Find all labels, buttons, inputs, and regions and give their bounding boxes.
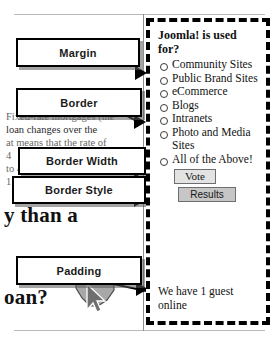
callout-label: Padding (57, 265, 102, 277)
poll-option-label: Intranets (172, 112, 212, 126)
poll-option-blogs[interactable]: Blogs (160, 99, 258, 113)
radio-button-icon[interactable] (160, 104, 168, 112)
callout-padding: Padding (16, 256, 142, 285)
radio-button-icon[interactable] (160, 77, 168, 85)
callout-label: Border (60, 97, 97, 109)
poll-option-label: eCommerce (172, 85, 228, 99)
callout-label: Margin (59, 47, 96, 59)
vote-button[interactable]: Vote (174, 169, 216, 184)
callout-border-width: Border Width (18, 147, 146, 175)
module-content: Joomla! is used for? Community Sites Pub… (158, 28, 258, 205)
poll-option-community-sites[interactable]: Community Sites (160, 58, 258, 72)
poll-options-list: Community Sites Public Brand Sites eComm… (158, 58, 258, 166)
poll-option-label: Blogs (172, 99, 199, 113)
poll-option-label: Public Brand Sites (172, 72, 258, 86)
poll-option-label: All of the Above! (172, 153, 253, 167)
poll-option-label: Photo and Media Sites (172, 126, 258, 153)
poll-buttons: Vote Results (158, 169, 258, 202)
whos-online-text: We have 1 guest online (158, 284, 258, 312)
article-headline: oan? (4, 285, 48, 310)
arrow-head-border (134, 115, 146, 129)
radio-button-icon[interactable] (160, 131, 168, 139)
scanned-page: Fixed-rate mortgages (the loan changes o… (0, 0, 279, 343)
callout-border: Border (16, 88, 142, 117)
poll-option-intranets[interactable]: Intranets (160, 112, 258, 126)
page-rule-bottom (14, 330, 265, 331)
radio-button-icon[interactable] (160, 158, 168, 166)
poll-option-public-brand-sites[interactable]: Public Brand Sites (160, 72, 258, 86)
callout-label: Border Width (46, 155, 118, 167)
poll-title: Joomla! is used for? (158, 28, 258, 56)
article-line: 1 (6, 175, 11, 188)
article-line: loan changes over the (6, 123, 97, 136)
article-line: 4 (6, 149, 11, 162)
article-headline: y than a (4, 203, 78, 228)
callout-label: Border Style (45, 184, 113, 196)
callout-margin: Margin (16, 38, 140, 67)
radio-button-icon[interactable] (160, 90, 168, 98)
poll-option-label: Community Sites (172, 58, 252, 72)
radio-button-icon[interactable] (160, 63, 168, 71)
results-button[interactable]: Results (178, 187, 236, 202)
poll-option-ecommerce[interactable]: eCommerce (160, 85, 258, 99)
radio-button-icon[interactable] (160, 117, 168, 125)
poll-option-photo-and-media-sites[interactable]: Photo and Media Sites (160, 126, 258, 153)
callout-border-style: Border Style (12, 176, 146, 204)
poll-option-all-of-the-above[interactable]: All of the Above! (160, 153, 258, 167)
joomla-poll-module: Joomla! is used for? Community Sites Pub… (146, 18, 270, 325)
page-rule-top (14, 14, 265, 15)
